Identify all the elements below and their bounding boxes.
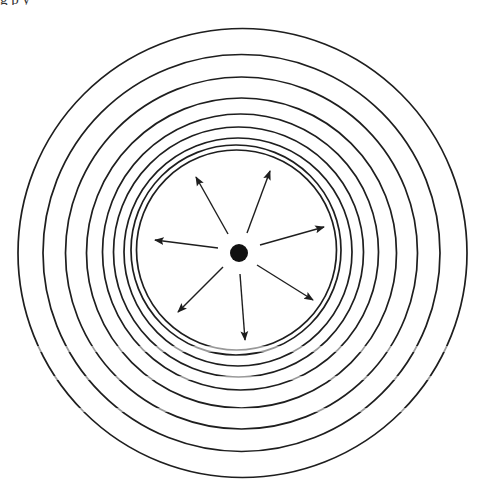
scan-fade-band (0, 376, 486, 380)
arrow-up-left-icon (196, 177, 228, 234)
scan-fade-band (0, 408, 486, 412)
arrow-down-right-icon (257, 265, 313, 300)
wave-diagram (0, 0, 486, 494)
arrow-down-icon (240, 274, 245, 340)
point-source-dot (230, 244, 248, 262)
arrow-down-left-icon (178, 267, 223, 312)
arrow-up-right-icon (247, 171, 270, 233)
arrow-right-icon (260, 227, 324, 245)
scan-fade-band (0, 346, 486, 352)
arrow-left-icon (155, 240, 218, 248)
